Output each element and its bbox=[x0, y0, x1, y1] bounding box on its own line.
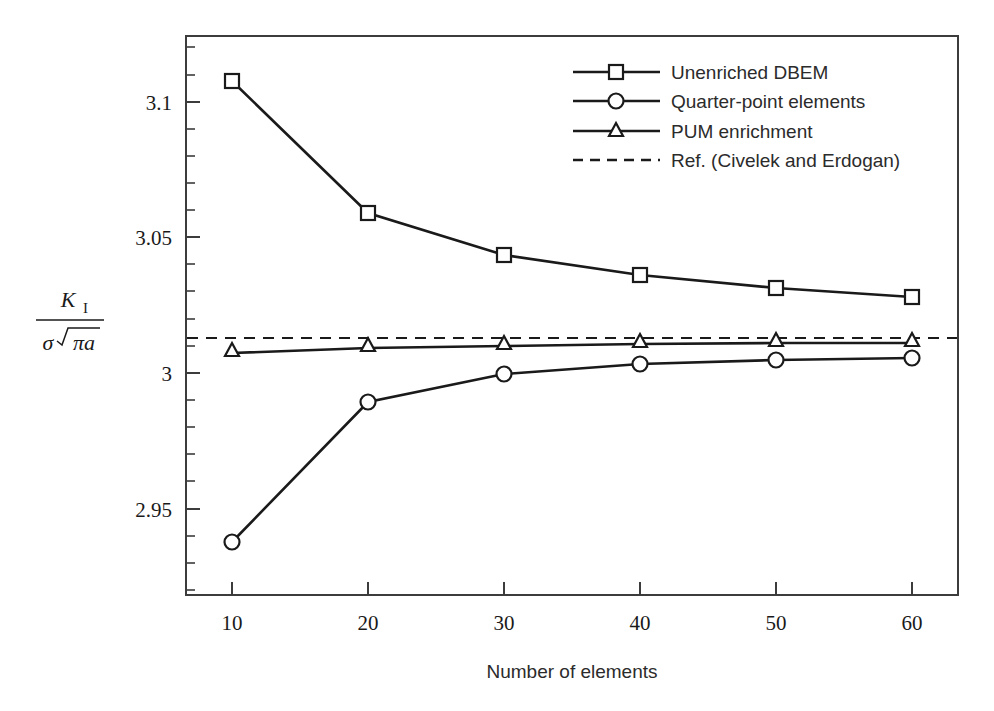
marker-square bbox=[769, 281, 783, 295]
chart-svg: 3.1 3.05 3 2.95 K I σ πa 10 20 30 40 50 … bbox=[0, 0, 994, 711]
y-axis-title-denominator-rest: πa bbox=[73, 330, 95, 355]
x-tick-label-30: 30 bbox=[494, 611, 515, 635]
figure-container: 3.1 3.05 3 2.95 K I σ πa 10 20 30 40 50 … bbox=[0, 0, 994, 711]
y-axis-title-numerator: K bbox=[60, 287, 77, 312]
x-tick-label-60: 60 bbox=[902, 611, 923, 635]
y-tick-label-3.05: 3.05 bbox=[135, 226, 172, 250]
y-tick-label-3: 3 bbox=[162, 362, 173, 386]
legend-label-unenriched-dbem: Unenriched DBEM bbox=[671, 62, 828, 83]
x-tick-label-20: 20 bbox=[358, 611, 379, 635]
marker-circle bbox=[769, 353, 784, 368]
marker-circle bbox=[633, 357, 648, 372]
y-axis-title-sigma: σ bbox=[43, 330, 55, 355]
marker-square bbox=[225, 74, 239, 88]
marker-circle bbox=[225, 535, 240, 550]
marker-square bbox=[609, 65, 623, 79]
x-tick-label-50: 50 bbox=[766, 611, 787, 635]
x-tick-label-10: 10 bbox=[222, 611, 243, 635]
x-axis-title: Number of elements bbox=[486, 661, 657, 682]
marker-square bbox=[633, 268, 647, 282]
marker-square bbox=[361, 206, 375, 220]
legend-label-reference: Ref. (Civelek and Erdogan) bbox=[671, 150, 900, 171]
marker-square bbox=[905, 290, 919, 304]
marker-circle bbox=[361, 395, 376, 410]
marker-square bbox=[497, 248, 511, 262]
marker-circle bbox=[905, 351, 920, 366]
legend-label-pum-enrichment: PUM enrichment bbox=[671, 121, 813, 142]
legend-item-unenriched-dbem[interactable]: Unenriched DBEM bbox=[573, 62, 828, 83]
marker-circle bbox=[609, 94, 624, 109]
marker-circle bbox=[497, 367, 512, 382]
legend-item-quarter-point-elements[interactable]: Quarter-point elements bbox=[573, 91, 865, 112]
y-axis-title-numerator-subscript: I bbox=[83, 300, 88, 316]
y-tick-label-2.95: 2.95 bbox=[135, 498, 172, 522]
legend-label-quarter-point-elements: Quarter-point elements bbox=[671, 91, 865, 112]
y-tick-label-3.1: 3.1 bbox=[146, 91, 172, 115]
x-tick-label-40: 40 bbox=[630, 611, 651, 635]
